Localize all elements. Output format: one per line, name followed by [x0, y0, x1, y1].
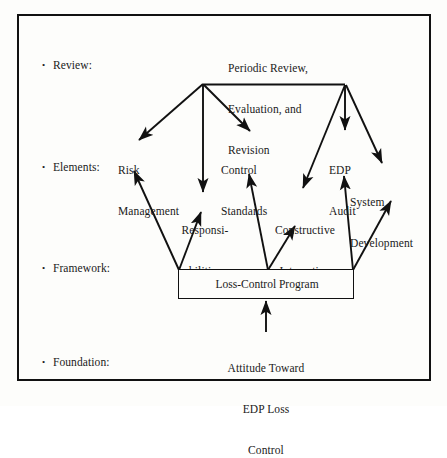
node-system-development-line1: System: [350, 196, 413, 210]
node-attitude-line1: Attitude Toward: [200, 362, 332, 376]
node-constructive-interaction-line1: Constructive: [267, 224, 343, 238]
node-risk-management-line2: Management: [118, 205, 179, 219]
bullet-icon: •: [42, 160, 53, 174]
tier-label-foundation-text: Foundation:: [53, 356, 110, 368]
tier-label-framework-text: Framework:: [53, 262, 110, 274]
tier-label-review: •Review:: [30, 44, 92, 86]
tier-label-review-text: Review:: [53, 59, 92, 71]
tier-label-elements: •Elements:: [30, 146, 100, 188]
node-responsibilities-line1: Responsi-: [172, 224, 238, 238]
node-risk-management-line1: Risk: [118, 164, 179, 178]
node-attitude-toward-edp-loss-control: Attitude Toward EDP Loss Control: [200, 334, 332, 458]
bullet-icon: •: [42, 58, 53, 72]
node-periodic-review-line2: Evaluation, and: [228, 103, 308, 117]
node-periodic-review-line1: Periodic Review,: [228, 62, 308, 76]
tier-label-elements-text: Elements:: [53, 161, 100, 173]
bullet-icon: •: [42, 355, 53, 369]
tier-label-framework: •Framework:: [30, 247, 110, 289]
node-system-development: System Development: [350, 168, 413, 278]
tier-label-foundation: •Foundation:: [30, 341, 110, 383]
loss-control-program-label: Loss-Control Program: [179, 278, 355, 290]
node-system-development-line2: Development: [350, 237, 413, 251]
bullet-icon: •: [42, 261, 53, 275]
node-attitude-line2: EDP Loss: [200, 403, 332, 417]
node-risk-management: Risk Management: [118, 136, 179, 246]
node-control-standards-line1: Control: [221, 164, 267, 178]
node-attitude-line3: Control: [200, 444, 332, 458]
loss-control-program-box: Loss-Control Program: [178, 269, 354, 299]
